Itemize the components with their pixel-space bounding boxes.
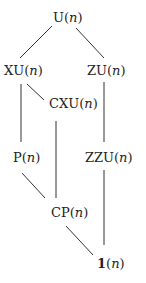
node-CXU: CXU(n) bbox=[49, 97, 98, 111]
node-prefix: U bbox=[53, 10, 64, 25]
node-arg: n bbox=[75, 205, 83, 220]
node-arg: n bbox=[84, 96, 92, 111]
paren: ) bbox=[120, 256, 125, 271]
paren: ) bbox=[38, 63, 43, 78]
node-prefix: CXU bbox=[49, 96, 79, 111]
node-arg: n bbox=[27, 150, 35, 165]
node-arg: n bbox=[111, 256, 119, 271]
edge-U-ZU bbox=[76, 28, 104, 58]
edge-P-CP bbox=[22, 173, 45, 198]
node-CP: CP(n) bbox=[51, 206, 88, 220]
paren: ) bbox=[127, 150, 132, 165]
paren: ) bbox=[83, 205, 88, 220]
edge-XU-CXU bbox=[27, 84, 44, 100]
node-prefix: P bbox=[13, 150, 22, 165]
node-U: U(n) bbox=[53, 11, 83, 25]
edge-CP-1 bbox=[66, 226, 93, 255]
paren: ) bbox=[35, 150, 40, 165]
edges-layer bbox=[0, 0, 146, 283]
node-prefix: ZZU bbox=[85, 150, 114, 165]
node-P: P(n) bbox=[13, 151, 40, 165]
node-ZZU: ZZU(n) bbox=[85, 151, 133, 165]
node-arg: n bbox=[29, 63, 37, 78]
paren: ) bbox=[77, 10, 82, 25]
paren: ) bbox=[120, 63, 125, 78]
node-prefix: XU bbox=[4, 63, 24, 78]
node-prefix: ZU bbox=[87, 63, 107, 78]
hasse-diagram: U(n) XU(n) ZU(n) CXU(n) P(n) ZZU(n) CP(n… bbox=[0, 0, 146, 283]
edge-U-XU bbox=[20, 26, 52, 58]
paren: ) bbox=[93, 96, 98, 111]
node-XU: XU(n) bbox=[4, 64, 43, 78]
node-ZU: ZU(n) bbox=[87, 64, 126, 78]
node-1: 1(n) bbox=[97, 257, 125, 271]
node-prefix: CP bbox=[51, 205, 70, 220]
node-prefix: 1 bbox=[97, 256, 106, 271]
